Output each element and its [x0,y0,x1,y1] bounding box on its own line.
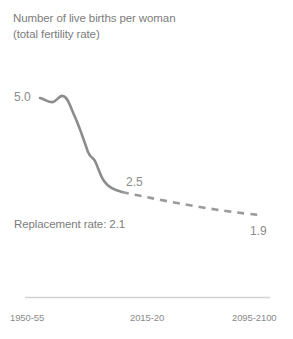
fertility-rate-chart: Number of live births per woman (total f… [0,0,293,339]
projected-fertility-line [122,192,259,215]
observed-fertility-line [40,96,122,192]
data-label-transition: 2.5 [126,175,143,189]
x-axis-tick-label-2: 2095-2100 [232,312,277,323]
data-label-end: 1.9 [250,224,267,238]
chart-plot-area [0,0,293,339]
x-axis-tick-label-1: 2015-20 [130,312,164,323]
data-label-start: 5.0 [14,90,31,104]
x-axis-tick-label-0: 1950-55 [10,312,44,323]
replacement-rate-annotation: Replacement rate: 2.1 [14,218,125,230]
